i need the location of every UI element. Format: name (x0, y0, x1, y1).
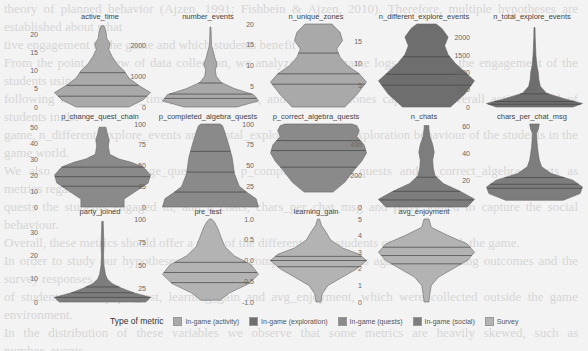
y-tick-label: 100 (242, 121, 254, 128)
y-tick-label: 100 (134, 121, 146, 128)
y-tick-label: -1.0 (242, 299, 254, 306)
y-tick-label: 500 (458, 86, 470, 93)
y-tick-label: 50 (246, 162, 254, 169)
y-tick-label: 5 (250, 83, 254, 90)
y-tick-label: 10 (354, 60, 362, 67)
y-tick-label: 4 (358, 232, 362, 239)
y-tick-label: 25 (246, 183, 254, 190)
panel-title: chars_per_chat_msg (472, 112, 588, 121)
y-tick-label: 0 (466, 104, 470, 111)
y-tick-label: 1 (358, 282, 362, 289)
y-tick-label: 50 (138, 162, 146, 169)
y-tick-label: 75 (246, 141, 254, 148)
y-tick-label: 1000 (454, 69, 470, 76)
y-tick-label: 75 (138, 141, 146, 148)
y-tick-label: 5 (358, 82, 362, 89)
y-tick-label: 20 (246, 21, 254, 28)
y-tick-label: 10 (30, 188, 38, 195)
y-tick-label: 15 (246, 41, 254, 48)
y-tick-label: 0.0 (244, 257, 254, 264)
panel-title: avg_enjoyment (364, 207, 484, 216)
violin-panel-chars-per-chat-msg: chars_per_chat_msg204060 (452, 112, 588, 212)
y-tick-label: 30 (30, 156, 38, 163)
y-tick-label: 2000 (130, 42, 146, 49)
y-tick-label: 200 (350, 172, 362, 179)
y-tick-label: 30 (30, 229, 38, 236)
y-tick-label: 40 (462, 150, 470, 157)
y-tick-label: 50 (30, 124, 38, 131)
violin-shape (379, 219, 475, 302)
y-tick-label: 10 (246, 62, 254, 69)
violin-plot: 0500100015002000 (452, 22, 588, 109)
y-tick-label: 1.0 (244, 216, 254, 223)
violin-plot: 012345 (344, 217, 484, 304)
y-tick-label: 10 (30, 67, 38, 74)
y-tick-label: 2 (358, 265, 362, 272)
violin-shape (487, 124, 583, 200)
y-tick-label: 0 (34, 299, 38, 306)
y-tick-label: 0 (142, 104, 146, 111)
violin-panel-avg-enjoyment: avg_enjoyment012345 (344, 207, 484, 307)
y-tick-label: 20 (30, 172, 38, 179)
panel-title: n_total_explore_events (472, 12, 588, 21)
y-tick-label: 75 (138, 239, 146, 246)
y-tick-label: 1000 (130, 73, 146, 80)
y-tick-label: 3 (358, 249, 362, 256)
y-tick-label: 2000 (454, 34, 470, 41)
y-tick-label: 15 (354, 38, 362, 45)
y-tick-label: 50 (138, 262, 146, 269)
y-tick-label: 10 (30, 275, 38, 282)
y-tick-label: 20 (462, 177, 470, 184)
y-tick-label: 25 (138, 183, 146, 190)
y-tick-label: 5 (34, 85, 38, 92)
y-tick-label: 25 (138, 285, 146, 292)
y-tick-label: -0.5 (242, 278, 254, 285)
y-tick-label: 60 (462, 123, 470, 130)
y-tick-label: 400 (350, 141, 362, 148)
y-tick-label: 1500 (454, 52, 470, 59)
y-tick-label: 0 (34, 104, 38, 111)
y-tick-label: 5 (358, 216, 362, 223)
violin-panel-n-total-explore-events: n_total_explore_events0500100015002000 (452, 12, 588, 112)
y-tick-label: 0.5 (244, 236, 254, 243)
y-tick-label: 0 (358, 299, 362, 306)
y-tick-label: 20 (30, 252, 38, 259)
y-tick-label: 15 (30, 49, 38, 56)
violin-shape (487, 28, 583, 108)
y-tick-label: 20 (30, 31, 38, 38)
y-tick-label: 100 (134, 216, 146, 223)
y-tick-label: 40 (30, 140, 38, 147)
violin-plot: 204060 (452, 122, 588, 209)
